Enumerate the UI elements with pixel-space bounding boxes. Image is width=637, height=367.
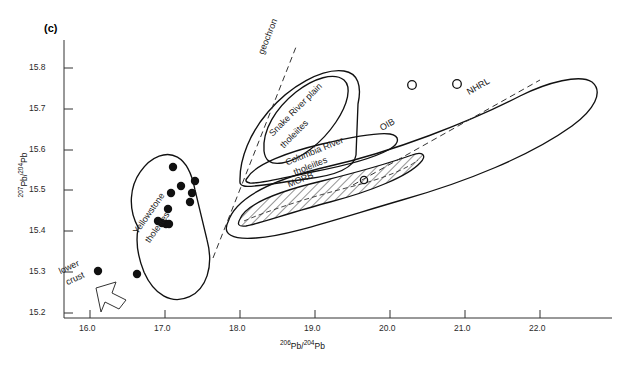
y-tick-15.3: 15.3 bbox=[29, 266, 46, 276]
lower-crust-arrow bbox=[96, 282, 126, 312]
data-point bbox=[188, 189, 196, 197]
data-point-open bbox=[408, 81, 417, 90]
field-morb bbox=[238, 153, 423, 226]
figure-panel-c: (c) bbox=[0, 0, 637, 367]
field-yellowstone-tholeiites bbox=[110, 148, 228, 308]
x-axis-ticks bbox=[90, 310, 540, 318]
data-point bbox=[167, 189, 175, 197]
x-tick-18.0: 18.0 bbox=[229, 323, 246, 333]
x-axis-title-sup-204: 204 bbox=[304, 339, 315, 346]
x-tick-20.0: 20.0 bbox=[379, 323, 396, 333]
y-axis-title: 207Pb/204Pb bbox=[19, 135, 29, 215]
x-tick-16.0: 16.0 bbox=[79, 323, 96, 333]
nhrl-line bbox=[353, 80, 540, 185]
data-point-open bbox=[453, 80, 462, 89]
x-tick-21.0: 21.0 bbox=[454, 323, 471, 333]
data-point bbox=[186, 198, 194, 206]
data-point bbox=[191, 177, 199, 185]
x-tick-17.0: 17.0 bbox=[154, 323, 171, 333]
data-point bbox=[177, 182, 185, 190]
geochron-line bbox=[213, 47, 296, 258]
x-tick-22.0: 22.0 bbox=[529, 323, 546, 333]
y-axis-title-end: Pb bbox=[19, 153, 29, 163]
y-axis-title-mid: Pb/ bbox=[19, 174, 29, 187]
y-tick-15.4: 15.4 bbox=[29, 225, 46, 235]
x-tick-19.0: 19.0 bbox=[304, 323, 321, 333]
x-axis-title-mid: Pb/ bbox=[291, 341, 304, 351]
x-axis-title-end: Pb bbox=[314, 341, 324, 351]
x-axis-title: 206Pb/204Pb bbox=[280, 341, 325, 351]
pb-isotope-scatter-plot bbox=[0, 0, 637, 367]
y-tick-15.8: 15.8 bbox=[29, 62, 46, 72]
y-tick-15.6: 15.6 bbox=[29, 144, 46, 154]
y-tick-15.5: 15.5 bbox=[29, 184, 46, 194]
y-tick-15.7: 15.7 bbox=[29, 103, 46, 113]
data-point bbox=[133, 270, 141, 278]
x-axis-title-sup-206: 206 bbox=[280, 339, 291, 346]
y-tick-15.2: 15.2 bbox=[29, 307, 46, 317]
y-axis-title-sup-207: 207 bbox=[17, 187, 24, 198]
data-point bbox=[169, 163, 177, 171]
data-point bbox=[94, 267, 102, 275]
y-axis-title-sup-204: 204 bbox=[17, 163, 24, 174]
